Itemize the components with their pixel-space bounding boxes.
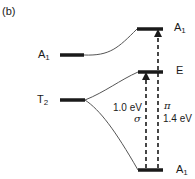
sigma-symbol: σ bbox=[134, 114, 141, 124]
label-left-t2: T2 bbox=[37, 94, 48, 107]
label-right-e: E bbox=[176, 65, 183, 76]
panel-label: (b) bbox=[2, 6, 15, 17]
label-left-a1: A1 bbox=[38, 49, 50, 62]
connector-t2-e bbox=[85, 72, 138, 100]
pi-energy-label: 1.4 eV bbox=[163, 114, 192, 124]
label-right-a1-bottom: A1 bbox=[176, 164, 188, 177]
pi-symbol: π bbox=[164, 101, 171, 111]
sigma-energy-label: 1.0 eV bbox=[113, 103, 142, 113]
energy-level-diagram bbox=[0, 0, 195, 179]
label-right-a1-top: A1 bbox=[174, 22, 186, 35]
connector-a1-a1 bbox=[84, 29, 137, 55]
